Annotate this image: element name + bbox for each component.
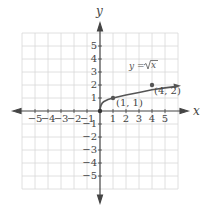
point-1-1 xyxy=(111,96,115,100)
x-tick-labels: −5 −4 −3 −2 −1 1 2 3 4 5 xyxy=(28,113,169,124)
y-axis-label: y xyxy=(95,4,103,18)
point-origin xyxy=(98,109,102,113)
point-label-1-1: (1, 1) xyxy=(116,97,143,108)
x-axis-left-arrow-icon xyxy=(13,109,21,114)
sqrt-function-graph: −5 −4 −3 −2 −1 1 2 3 4 5 5 4 3 2 1 −1 −2… xyxy=(0,0,210,211)
svg-text:y =: y = xyxy=(128,61,145,71)
x-tick-label: 1 xyxy=(110,113,116,124)
x-axis-label: x xyxy=(193,104,200,118)
y-tick-label: −4 xyxy=(82,157,97,168)
equation-variable: x xyxy=(151,60,156,70)
x-tick-label: 2 xyxy=(123,113,129,124)
y-tick-label: −1 xyxy=(82,118,97,129)
y-axis-up-arrow-icon xyxy=(98,23,103,31)
x-tick-label: 4 xyxy=(149,113,155,124)
y-tick-label: 2 xyxy=(91,79,97,90)
x-tick-label: 5 xyxy=(162,113,168,124)
y-axis-down-arrow-icon xyxy=(98,195,103,203)
x-axis-right-arrow-icon xyxy=(180,109,188,114)
y-tick-label: 4 xyxy=(91,53,97,64)
y-tick-label: 1 xyxy=(91,92,97,103)
y-tick-label: −2 xyxy=(82,131,97,142)
x-tick-label: 3 xyxy=(136,113,142,124)
y-tick-label: −3 xyxy=(82,144,97,155)
point-label-4-2: (4, 2) xyxy=(154,85,181,96)
y-tick-label: 5 xyxy=(91,40,97,51)
y-tick-label: 3 xyxy=(91,66,97,77)
y-tick-label: −5 xyxy=(82,170,97,181)
equation-label: y = x xyxy=(128,60,158,71)
